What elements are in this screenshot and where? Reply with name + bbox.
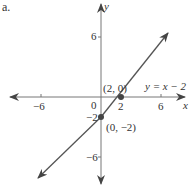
x-tick-label-6: 6	[158, 101, 164, 112]
point-y-intercept	[98, 114, 104, 120]
y-axis-label: y	[104, 1, 109, 12]
equation-label: y = x − 2	[145, 81, 186, 92]
x-tick-label-neg6: −6	[33, 101, 45, 112]
x-axis-label: x	[183, 100, 188, 111]
line-y-equals-x-minus-2-lower	[38, 117, 101, 178]
x-tick-label-2: 2	[118, 101, 124, 112]
origin-label: 0	[91, 100, 97, 111]
point-label-x-intercept: (2, 0)	[103, 83, 127, 94]
y-tick-label-neg6: −6	[86, 152, 98, 163]
y-tick-label-neg2: −2	[86, 112, 98, 123]
graph-figure: a. y x 6 −2 −6 −6 2 6 0 (2, 0) (0, −2) y…	[0, 0, 189, 185]
y-tick-label-6: 6	[91, 31, 97, 42]
point-label-y-intercept: (0, −2)	[106, 122, 136, 133]
panel-label: a.	[2, 1, 10, 13]
